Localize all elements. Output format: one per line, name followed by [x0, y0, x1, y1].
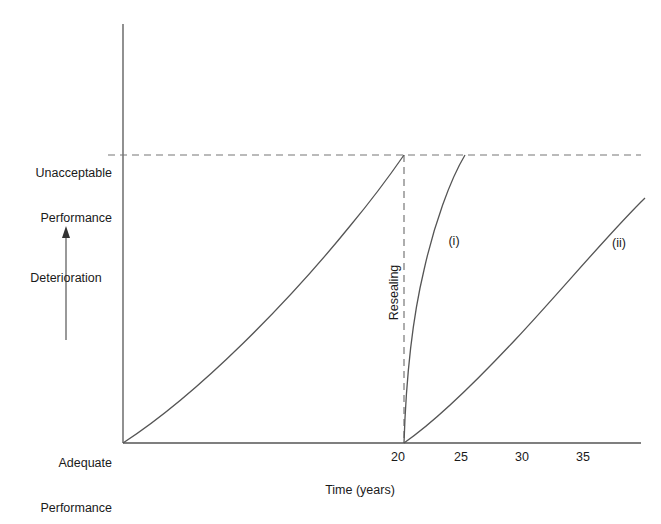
- resealing-label: Resealing: [387, 253, 402, 333]
- x-tick-label-25: 25: [441, 450, 481, 465]
- unacceptable-line-2: Performance: [0, 211, 112, 226]
- x-tick-label-35: 35: [563, 450, 603, 465]
- curve-i-label: (i): [442, 234, 466, 249]
- adequate-line-1: Adequate: [0, 456, 112, 471]
- adequate-line-2: Performance: [0, 501, 112, 516]
- y-axis-label-adequate-performance: Adequate Performance: [0, 426, 112, 524]
- x-axis-title: Time (years): [300, 483, 420, 498]
- y-axis-label-unacceptable-performance: Unacceptable Performance: [0, 136, 112, 256]
- unacceptable-line-1: Unacceptable: [0, 166, 112, 181]
- curve-initial-deterioration: [123, 155, 404, 443]
- x-tick-label-20: 20: [378, 450, 418, 465]
- chart-figure: Unacceptable Performance Adequate Perfor…: [0, 0, 661, 524]
- curve-ii-path: [404, 198, 645, 443]
- y-axis-title: Deterioration: [16, 271, 116, 286]
- x-tick-label-30: 30: [502, 450, 542, 465]
- curve-ii-label: (ii): [606, 236, 632, 251]
